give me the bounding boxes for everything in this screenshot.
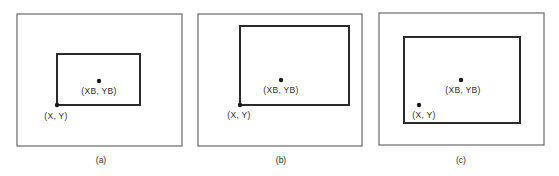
panel-caption: (a) — [96, 155, 107, 165]
center-point-dot — [279, 78, 283, 82]
panel-caption: (c) — [456, 155, 466, 165]
origin-point-dot — [238, 103, 242, 107]
panel-c: (XB, YB) (X, Y) (c) — [379, 13, 544, 165]
origin-point-dot — [55, 103, 59, 107]
center-point-label: (XB, YB) — [445, 85, 480, 95]
panel-caption: (b) — [276, 155, 287, 165]
window-placement-diagram: (XB, YB) (X, Y) (a) (XB, YB) (X, Y) (b) … — [0, 0, 559, 176]
center-point-label: (XB, YB) — [263, 85, 298, 95]
origin-point-label: (X, Y) — [412, 110, 435, 120]
center-point-dot — [97, 79, 101, 83]
origin-point-label: (X, Y) — [227, 110, 250, 120]
center-point-dot — [459, 78, 463, 82]
panel-b: (XB, YB) (X, Y) (b) — [198, 14, 362, 165]
origin-point-dot — [417, 103, 421, 107]
origin-point-label: (X, Y) — [44, 111, 67, 121]
panel-a: (XB, YB) (X, Y) (a) — [17, 14, 182, 165]
center-point-label: (XB, YB) — [81, 86, 116, 96]
